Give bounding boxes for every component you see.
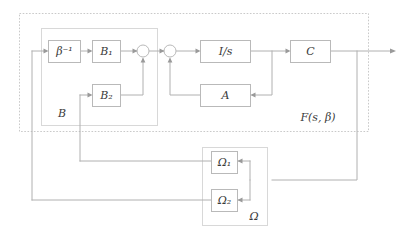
arrow-into-omega2 bbox=[238, 198, 243, 203]
block-beta-inverse: β⁻¹ bbox=[49, 41, 81, 63]
block-b2-label: B₂ bbox=[99, 89, 113, 102]
block-omega2: Ω₂ bbox=[212, 190, 238, 212]
block-integrator: I/s bbox=[201, 41, 251, 63]
block-b1-label: B₁ bbox=[99, 45, 113, 58]
arrow-into-a bbox=[251, 93, 256, 98]
arrow-into-b1 bbox=[88, 49, 93, 54]
diagram-canvas: β⁻¹ B₁ B₂ I/s A C Ω₁ bbox=[0, 0, 409, 238]
wire-a-to-sum2 bbox=[170, 59, 200, 95]
block-omega1: Ω₁ bbox=[212, 152, 238, 174]
wire-b2-to-sum1 bbox=[120, 59, 143, 95]
arrow-into-omega1 bbox=[238, 159, 243, 164]
omega-group-label: Ω bbox=[248, 210, 258, 223]
arrow-output bbox=[390, 48, 396, 53]
arrow-into-sum2-bottom bbox=[168, 58, 173, 63]
b-group-label: B bbox=[57, 107, 66, 120]
block-omega2-label: Ω₂ bbox=[217, 194, 232, 207]
block-c-label: C bbox=[306, 45, 315, 58]
f-group-label: F(s, β) bbox=[299, 111, 335, 124]
wire-integrator-tap-to-a bbox=[252, 51, 272, 95]
block-integrator-label: I/s bbox=[218, 45, 233, 58]
block-diagram-figure: β⁻¹ B₁ B₂ I/s A C Ω₁ bbox=[0, 0, 409, 238]
block-beta-inverse-label: β⁻¹ bbox=[55, 45, 73, 58]
block-a-label: A bbox=[221, 89, 230, 102]
arrow-into-integrator bbox=[196, 49, 201, 54]
arrow-into-beta-inverse bbox=[44, 49, 49, 54]
arrow-into-b2 bbox=[88, 93, 93, 98]
sum-junction-1 bbox=[137, 45, 149, 57]
block-b2: B₂ bbox=[93, 85, 121, 107]
block-b1: B₁ bbox=[93, 41, 121, 63]
block-c: C bbox=[291, 41, 331, 63]
arrow-into-c bbox=[286, 49, 291, 54]
block-omega1-label: Ω₁ bbox=[217, 156, 232, 169]
block-a: A bbox=[201, 85, 251, 107]
arrow-into-sum1-bottom bbox=[141, 58, 146, 63]
sum-junction-2 bbox=[164, 45, 176, 57]
